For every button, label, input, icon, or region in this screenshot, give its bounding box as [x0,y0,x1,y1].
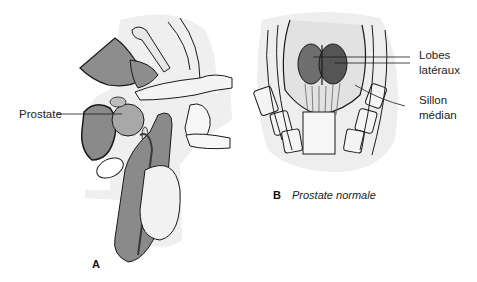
panel-b-illustration [0,0,477,282]
label-sillon-line1: Sillon [419,93,447,107]
caption-text: Prostate normale [292,189,376,201]
anatomy-figure: Prostate A [0,0,477,282]
panel-b-letter: B [273,189,281,201]
right-lateral-lobe [319,44,347,84]
label-lobes-line1: Lobes [419,48,450,62]
label-sillon-line2: médian [419,108,457,122]
panel-b-caption: Prostate normale [292,189,376,201]
label-lobes-line2: latéraux [419,63,460,77]
anal-canal [303,112,335,154]
